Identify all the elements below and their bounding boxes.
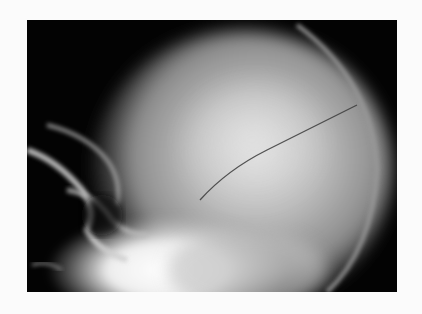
skull-xray-image [27,20,397,292]
xray-graphic [27,20,397,292]
